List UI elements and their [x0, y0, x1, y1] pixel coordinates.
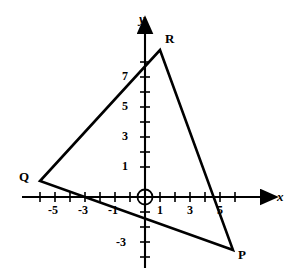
- x-tick-label-3: 3: [187, 204, 193, 216]
- y-tick-label-7: 7: [122, 70, 128, 82]
- y-tick-label-minus3: -3: [116, 236, 126, 248]
- x-tick-label-minus3: -3: [78, 204, 88, 216]
- x-tick-label-minus1: -1: [108, 204, 118, 216]
- plot-canvas: [0, 0, 297, 278]
- x-tick-label-1: 1: [157, 204, 163, 216]
- y-tick-label-1: 1: [122, 160, 128, 172]
- x-tick-label-minus5: -5: [48, 204, 58, 216]
- vertex-label-q: Q: [19, 170, 29, 183]
- coordinate-plane-figure: x y -5 -3 -1 1 3 5 7 5 3 1 -3 Q R P: [0, 0, 297, 278]
- y-axis-label: y: [139, 12, 145, 25]
- y-tick-label-3: 3: [122, 130, 128, 142]
- vertex-label-p: P: [238, 248, 246, 261]
- vertex-label-r: R: [165, 32, 174, 45]
- y-tick-label-5: 5: [122, 100, 128, 112]
- x-axis-label: x: [277, 190, 284, 203]
- x-tick-label-5: 5: [217, 204, 223, 216]
- triangle-pqr: [40, 50, 233, 250]
